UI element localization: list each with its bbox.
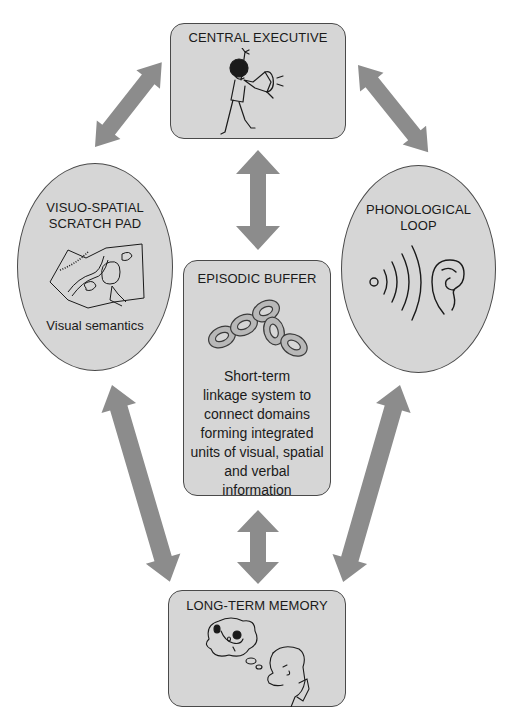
map-with-hand-icon <box>48 242 148 314</box>
episodic-buffer-node: EPISODIC BUFFER Short-term linkage syste… <box>183 260 331 496</box>
visual-semantics-caption: Visual semantics <box>18 316 172 335</box>
arrow-central-to-visuospatial <box>83 53 173 156</box>
visuo-spatial-title-line1: VISUO-SPATIAL <box>18 200 172 216</box>
visuo-spatial-title: VISUO-SPATIAL SCRATCH PAD <box>18 200 172 232</box>
description-line: Short-term <box>184 367 330 386</box>
phonological-loop-node: PHONOLOGICAL LOOP <box>341 165 496 373</box>
person-with-megaphone-icon <box>211 48 311 138</box>
long-term-memory-title: LONG-TERM MEMORY <box>169 598 345 614</box>
arrow-central-to-phonological <box>346 56 440 162</box>
chain-links-icon <box>206 295 312 359</box>
arrow-central-to-episodic <box>236 150 280 250</box>
sound-waves-ear-icon <box>366 244 476 324</box>
arrow-phonological-to-ltm <box>326 380 417 587</box>
arrow-episodic-to-ltm <box>237 510 279 584</box>
arrow-visuospatial-to-ltm <box>95 380 187 587</box>
description-line: units of visual, spatial <box>184 443 330 462</box>
description-line: information <box>184 481 330 500</box>
description-line: and verbal <box>184 462 330 481</box>
phonological-title-line2: LOOP <box>342 218 495 234</box>
phonological-loop-title: PHONOLOGICAL LOOP <box>342 202 495 234</box>
description-line: linkage system to <box>184 386 330 405</box>
phonological-title-line1: PHONOLOGICAL <box>342 202 495 218</box>
central-executive-title: CENTRAL EXECUTIVE <box>171 30 345 46</box>
episodic-buffer-description: Short-term linkage system to connect dom… <box>184 367 330 500</box>
episodic-buffer-title: EPISODIC BUFFER <box>184 271 330 287</box>
working-memory-diagram: CENTRAL EXECUTIVE VISUO-SPATIAL SCRATCH … <box>0 0 510 724</box>
person-thinking-of-dog-icon <box>203 617 323 707</box>
central-executive-node: CENTRAL EXECUTIVE <box>170 23 346 139</box>
visuo-spatial-title-line2: SCRATCH PAD <box>18 216 172 232</box>
long-term-memory-node: LONG-TERM MEMORY <box>168 590 346 707</box>
description-line: connect domains <box>184 405 330 424</box>
visuo-spatial-scratch-pad-node: VISUO-SPATIAL SCRATCH PAD Visual semanti… <box>17 163 173 371</box>
description-line: forming integrated <box>184 424 330 443</box>
